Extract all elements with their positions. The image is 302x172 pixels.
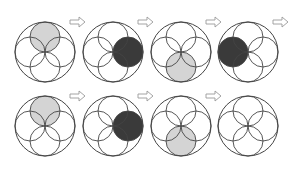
right-arrow-icon xyxy=(138,17,153,27)
petal-circle-bottom xyxy=(30,52,60,82)
right-arrow-icon xyxy=(70,91,85,101)
petal-circle-top xyxy=(98,96,128,126)
circle-figure xyxy=(151,96,211,156)
petal-circle-left xyxy=(151,111,181,141)
right-arrow-icon xyxy=(138,91,153,101)
right-arrow-icon xyxy=(206,91,221,101)
petal-circle-left xyxy=(151,37,181,67)
circle-figure xyxy=(218,96,278,156)
petal-circle-top xyxy=(166,96,196,126)
circle-figure xyxy=(218,22,278,82)
petal-circle-bottom xyxy=(233,126,263,156)
petal-circle-left xyxy=(15,111,45,141)
right-arrow-icon xyxy=(273,17,288,27)
petal-circle-right xyxy=(45,37,75,67)
right-arrow-icon xyxy=(206,17,221,27)
petal-circle-right xyxy=(248,37,278,67)
petal-circle-left xyxy=(83,111,113,141)
petal-circle-top xyxy=(233,96,263,126)
circle-figure xyxy=(15,96,75,156)
petal-circle-top xyxy=(233,22,263,52)
petal-circle-left xyxy=(83,37,113,67)
petal-circle-bottom xyxy=(233,52,263,82)
petal-circle-bottom xyxy=(98,52,128,82)
circle-sequence-diagram xyxy=(0,0,302,172)
petal-circle-right xyxy=(181,111,211,141)
diagram-canvas xyxy=(0,0,302,172)
petal-circle-right xyxy=(181,37,211,67)
circle-figure xyxy=(83,22,143,82)
circle-figure xyxy=(151,22,211,82)
petal-circle-right xyxy=(45,111,75,141)
circle-figure xyxy=(83,96,143,156)
petal-circle-left xyxy=(218,111,248,141)
petal-circle-bottom xyxy=(98,126,128,156)
circle-figure xyxy=(15,22,75,82)
petal-circle-top xyxy=(166,22,196,52)
petal-circle-right xyxy=(248,111,278,141)
petal-circle-left xyxy=(15,37,45,67)
petal-circle-top xyxy=(98,22,128,52)
right-arrow-icon xyxy=(70,17,85,27)
petal-circle-bottom xyxy=(30,126,60,156)
